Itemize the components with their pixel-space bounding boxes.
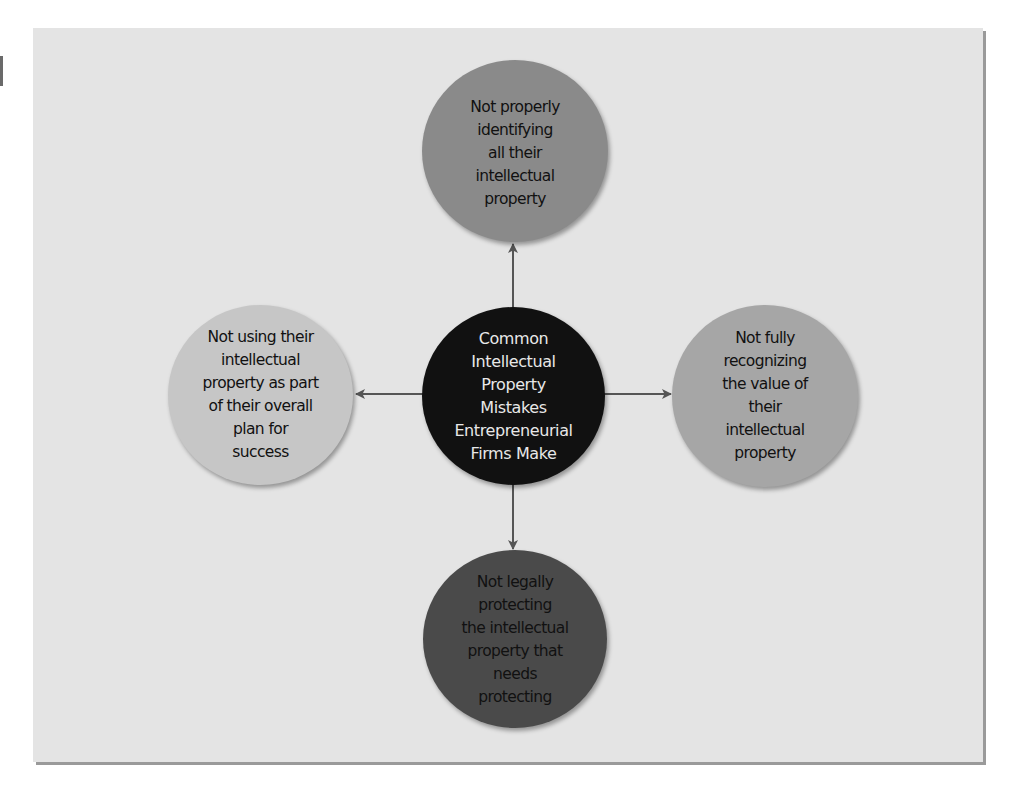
mistake-node-right: Not fully recognizing the value of their… xyxy=(672,305,858,487)
mistake-node-left: Not using their intellectual property as… xyxy=(168,305,353,485)
central-topic-node: Common Intellectual Property Mistakes En… xyxy=(422,307,605,485)
mistake-label-left: Not using their intellectual property as… xyxy=(203,326,319,464)
mistake-label-right: Not fully recognizing the value of their… xyxy=(722,327,807,465)
mistake-node-bottom: Not legally protecting the intellectual … xyxy=(423,550,607,728)
mistake-label-bottom: Not legally protecting the intellectual … xyxy=(462,569,569,709)
mistake-node-top: Not properly identifying all their intel… xyxy=(422,60,608,242)
mistake-label-top: Not properly identifying all their intel… xyxy=(470,92,559,211)
central-topic-label: Common Intellectual Property Mistakes En… xyxy=(454,327,572,465)
